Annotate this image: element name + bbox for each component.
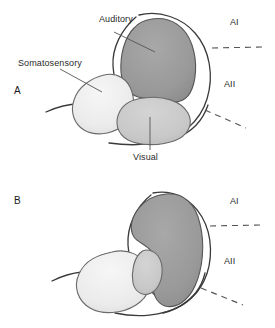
sensory-cortex-figure [0, 0, 275, 328]
dashed-divider-lower-b [201, 288, 243, 305]
label-somatosensory-a: Somatosensory [18, 58, 82, 68]
dashed-divider-ai-aii-b [210, 225, 260, 226]
region-visual-a [117, 97, 190, 144]
label-visual-a: Visual [133, 152, 158, 162]
dashed-divider-lower-a [205, 110, 246, 128]
dashed-divider-ai-aii-a [212, 47, 262, 48]
panel-b [52, 192, 260, 315]
label-aii-b: AII [224, 256, 235, 266]
label-auditory-a: Auditory [99, 14, 133, 24]
panel-label-a: A [14, 86, 21, 96]
label-ai-a: AI [230, 17, 239, 27]
label-ai-b: AI [230, 196, 239, 206]
panel-label-b: B [14, 196, 21, 206]
label-aii-a: AII [224, 79, 235, 89]
region-auditory-a [121, 19, 196, 103]
region-visual-b [132, 250, 162, 294]
